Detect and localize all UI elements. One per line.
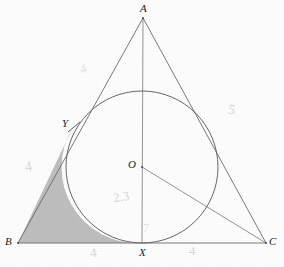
point-dot-o <box>141 166 143 168</box>
annotation-bottom-right: 4 <box>189 244 196 257</box>
tangent-tick-icon <box>68 122 80 132</box>
label-point-c: C <box>269 236 276 247</box>
annotation-bottom-left: 4 <box>89 246 97 260</box>
segment-side-ab <box>18 18 143 243</box>
annotation-center: 2.3 <box>112 189 130 205</box>
label-point-b: B <box>5 236 12 247</box>
geometry-canvas <box>0 0 284 267</box>
shaded-corner-region <box>18 127 142 243</box>
label-point-y: Y <box>62 118 68 129</box>
label-point-o: O <box>128 159 136 170</box>
annotation-near-x: 7 <box>143 222 149 234</box>
segment-side-ac <box>143 18 266 243</box>
segment-axis-ax <box>142 18 143 243</box>
label-point-x: X <box>139 247 146 258</box>
point-dot-a <box>142 17 144 19</box>
geometry-figure: A B C O X Y 4 5 4 2.3 7 4 4 <box>0 0 284 267</box>
point-dot-c <box>265 242 267 244</box>
point-dot-b <box>17 242 19 244</box>
label-point-a: A <box>140 3 147 14</box>
segment-oc <box>142 167 266 243</box>
